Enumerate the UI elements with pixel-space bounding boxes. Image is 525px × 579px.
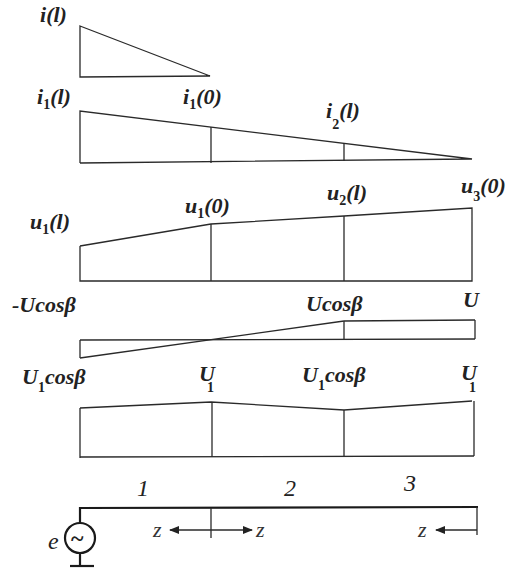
row-u-distribution: u1(l) u1(0) u2(l) u3(0) [30, 173, 506, 281]
label-u3-0: u3(0) [461, 173, 506, 204]
label-u1-cos-node2: U1cosβ [302, 362, 366, 393]
label-ucos: Ucosβ [306, 291, 363, 316]
row-i-single: i(l) [40, 2, 210, 77]
label-i1-0: i1(0) [183, 84, 222, 112]
label-i-l: i(l) [40, 2, 67, 27]
svg-text:~: ~ [71, 525, 84, 551]
row-u1-distribution: U1cosβ U1 U1cosβ U1 [22, 360, 478, 458]
source-label-e: e [48, 528, 59, 554]
label-u1-l: u1(l) [30, 209, 70, 237]
label-u1-node1: U1 [199, 361, 216, 395]
segment-label-2: 2 [284, 475, 296, 501]
label-neg-ucos: -Ucosβ [12, 292, 77, 317]
label-u1-0: u1(0) [185, 193, 230, 221]
label-u1-cos-left: U1cosβ [22, 364, 86, 395]
segment-label-3: 3 [403, 470, 416, 496]
z-arrow-right-segment2: z [211, 517, 265, 542]
z-arrow-left-segment1: z [152, 517, 211, 542]
row-i-distribution: i1(l) i1(0) i2(l) [37, 84, 472, 163]
label-u1-end: U1 [461, 360, 478, 395]
circuit: ~ e 1 2 3 z z z [48, 470, 478, 566]
label-i1-l: i1(l) [37, 84, 71, 112]
svg-text:z: z [255, 517, 265, 542]
z-arrow-left-segment3: z [417, 517, 477, 542]
segment-label-1: 1 [137, 475, 149, 501]
svg-text:z: z [417, 517, 427, 542]
svg-text:z: z [152, 517, 162, 542]
label-u2-l: u2(l) [327, 180, 367, 208]
row-ucos-distribution: -Ucosβ Ucosβ U [12, 287, 480, 358]
voltage-source-icon: ~ [65, 523, 95, 566]
label-u: U [463, 287, 480, 312]
label-i2-l: i2(l) [326, 98, 360, 132]
transmission-line-diagram: i(l) i1(l) i1(0) i2(l) u1(l) u1(0) u2(l) [0, 0, 525, 579]
